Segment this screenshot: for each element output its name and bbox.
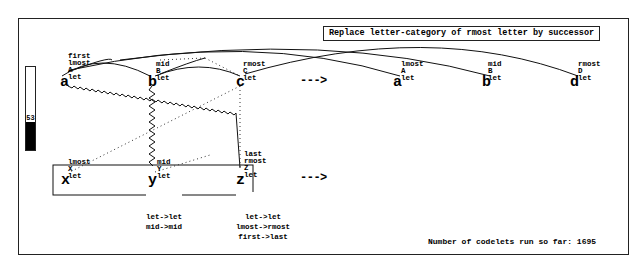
modified-letter-a: a [393, 75, 402, 90]
descriptor-mod-d: rmostDlet [578, 47, 601, 89]
arrow-initial-to-modified: ---> [300, 74, 327, 88]
descriptor-a: firstlmostAlet [68, 39, 91, 88]
mapping-z: let->letlmost->rmostfirst->last [236, 192, 290, 252]
initial-letter-c: c [236, 75, 245, 90]
modified-letter-b: b [482, 75, 491, 90]
target-letter-z: z [236, 173, 245, 188]
descriptor-x: lmostXlet [68, 145, 91, 187]
arrow-target-to-answer: ---> [300, 171, 327, 185]
bridge-c-x [70, 86, 240, 172]
codelets-counter: Number of codelets run so far: 1695 [428, 237, 596, 246]
target-letter-y: y [148, 173, 157, 188]
correspondence-a-a [70, 51, 400, 76]
mapping-y: let->letmid->mid [146, 192, 182, 242]
descriptor-y: midYlet [157, 145, 171, 187]
correspondence-b-b [120, 49, 490, 76]
initial-letter-a: a [60, 75, 69, 90]
bridge-b-y [149, 86, 155, 166]
descriptor-b: midBlet [156, 47, 170, 89]
descriptor-mod-a: lmostAlet [401, 47, 424, 89]
initial-letter-b: b [148, 75, 157, 90]
descriptor-c: rmostClet [243, 47, 266, 89]
target-letter-x: x [61, 173, 70, 188]
workspace-connections [0, 0, 640, 268]
descriptor-z: lastrmostZlet [244, 137, 267, 186]
modified-letter-d: d [570, 75, 579, 90]
